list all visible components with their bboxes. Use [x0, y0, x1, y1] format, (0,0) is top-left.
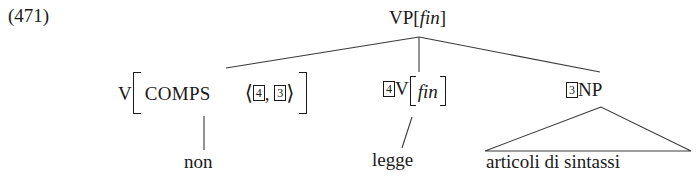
tag-index-4-node: 4	[383, 81, 395, 97]
example-number: (471)	[8, 6, 49, 25]
node-v-fin-category: V	[395, 78, 409, 99]
node-vp-fin-category: VP	[389, 7, 413, 28]
leaf-legge: legge	[372, 150, 413, 169]
syntax-tree-figure: (471) VP[fin] V COMPS ⟨4, 3⟩ 4Vfin 3NP	[0, 0, 700, 187]
node-v-comps-category: V	[118, 84, 132, 103]
leaf-articoli-di-sintassi: articoli di sintassi	[486, 152, 620, 171]
avm-attribute-comps: COMPS	[145, 84, 211, 103]
avm-value-list: ⟨4, 3⟩	[245, 83, 295, 104]
node-v-fin-bracket-left	[410, 76, 416, 106]
tag-index-3: 3	[274, 85, 286, 101]
avm-bracket-right	[299, 72, 307, 114]
edge-root-to-np	[419, 37, 600, 72]
avm-body: COMPS ⟨4, 3⟩	[142, 83, 298, 104]
node-v-comps: V COMPS ⟨4, 3⟩	[118, 72, 308, 114]
np-triangle	[485, 107, 691, 151]
node-vp-fin-feature: fin	[420, 7, 440, 28]
node-v-fin: 4Vfin	[383, 76, 447, 106]
node-vp-fin-bracket-close: ]	[440, 7, 446, 28]
node-np: 3NP	[566, 80, 602, 99]
edge-v-fin-to-legge	[402, 117, 412, 148]
leaf-non: non	[184, 152, 213, 171]
tag-index-3-node: 3	[566, 82, 578, 98]
node-v-fin-feature: fin	[417, 82, 439, 101]
node-v-fin-feature-bracket: fin	[409, 76, 447, 106]
node-v-fin-bracket-right	[440, 76, 446, 106]
avm-bracket-left	[133, 72, 141, 114]
angle-bracket-open: ⟨	[245, 81, 253, 105]
edge-root-to-v-comps	[226, 37, 419, 68]
node-vp-fin: VP[fin]	[389, 8, 446, 27]
angle-bracket-close: ⟩	[286, 81, 294, 105]
tag-index-4: 4	[253, 85, 265, 101]
avm-value-separator: ,	[265, 83, 270, 104]
node-np-category: NP	[578, 79, 602, 100]
